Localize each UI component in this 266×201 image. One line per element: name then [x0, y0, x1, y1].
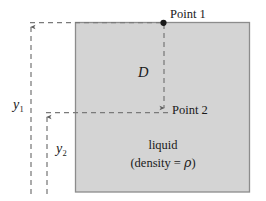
height-y1-label: y1	[13, 98, 23, 112]
liquid-name-label: liquid	[148, 139, 177, 152]
rho-symbol: ρ	[184, 155, 191, 170]
y2-symbol: y	[56, 141, 62, 156]
diagram-canvas	[0, 0, 266, 201]
height-y2-label: y2	[56, 142, 66, 156]
y2-subscript: 2	[63, 148, 67, 158]
point-1-marker-icon	[160, 20, 166, 26]
point-1-label: Point 1	[170, 8, 206, 21]
density-prefix: (density =	[130, 156, 184, 170]
liquid-density-label: (density = ρ)	[130, 157, 195, 170]
y1-subscript: 1	[20, 104, 24, 114]
y1-symbol: y	[13, 97, 19, 112]
point-2-label: Point 2	[172, 104, 208, 117]
fluid-pressure-diagram: Point 1 Point 2 D y1 y2 liquid (density …	[0, 0, 266, 201]
density-suffix: )	[191, 156, 195, 170]
depth-D-label: D	[138, 65, 148, 80]
